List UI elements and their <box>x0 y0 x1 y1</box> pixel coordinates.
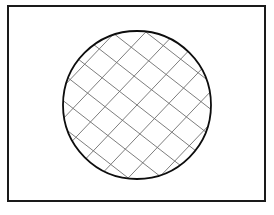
figure-canvas: Cross-hatched circle inside rectangular … <box>0 0 274 215</box>
